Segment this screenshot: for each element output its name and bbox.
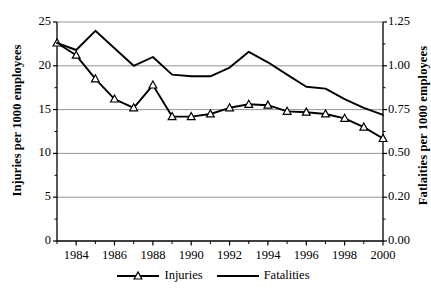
series-line-injuries <box>57 43 383 139</box>
legend-label: Injuries <box>164 268 202 283</box>
legend-swatch-injuries <box>116 270 160 282</box>
legend-item[interactable]: Injuries <box>116 268 202 283</box>
series-marker-injuries <box>72 51 80 58</box>
series-line-fatalities <box>57 31 383 115</box>
legend-swatch-fatalities <box>216 270 260 282</box>
series-marker-injuries <box>149 81 157 88</box>
legend-item[interactable]: Fatalities <box>216 268 310 283</box>
legend-label: Fatalities <box>264 268 310 283</box>
chart-legend: InjuriesFatalities <box>0 268 426 283</box>
